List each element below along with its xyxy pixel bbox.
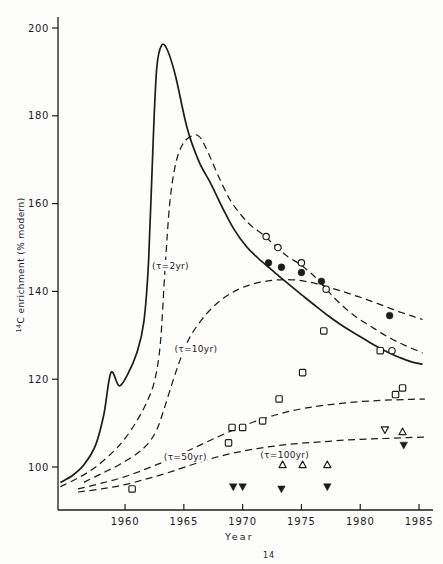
open-squares-marker	[321, 328, 327, 334]
curve-label-tau-2yr: (τ=2yr)	[152, 261, 189, 271]
filled-circles-marker	[386, 312, 393, 319]
curve-label-tau-50yr: (τ=50yr)	[164, 452, 207, 462]
open-triangles-up-marker	[324, 461, 331, 468]
caption-fragment: 14	[263, 551, 275, 560]
open-squares-marker	[377, 347, 383, 353]
filled-circles-marker	[278, 264, 285, 271]
filled-triangles-down-marker	[278, 486, 286, 493]
curve-label-tau-10yr: (τ=10yr)	[174, 344, 217, 354]
filled-circles-marker	[265, 259, 272, 266]
x-tick-label: 1985	[405, 516, 434, 527]
filled-triangles-down-marker	[324, 484, 332, 491]
open-squares-marker	[239, 424, 245, 430]
open-squares-marker	[259, 418, 265, 424]
y-tick-label: 120	[28, 374, 49, 385]
open-triangles-up-marker	[299, 461, 306, 468]
open-circles-marker	[298, 260, 304, 266]
y-tick-label: 180	[28, 110, 49, 121]
open-triangles-up-marker	[279, 461, 286, 468]
curve-tau-50yr	[78, 399, 425, 489]
x-tick-label: 1970	[228, 516, 257, 527]
open-squares-marker	[229, 424, 235, 430]
open-circles-marker	[263, 233, 269, 239]
y-tick-label: 200	[28, 23, 49, 34]
figure-page: 1001201401601802001960196519701975198019…	[0, 0, 443, 564]
x-axis-label: Year	[224, 531, 254, 542]
open-circles-marker	[389, 347, 395, 353]
x-tick-label: 1965	[170, 516, 199, 527]
y-tick-label: 100	[28, 462, 49, 473]
curve-atmosphere	[60, 44, 422, 482]
open-squares-marker	[129, 486, 135, 492]
open-squares-marker	[299, 369, 305, 375]
open-squares-marker	[276, 396, 282, 402]
c14-enrichment-chart: 1001201401601802001960196519701975198019…	[0, 0, 443, 564]
filled-triangles-down-marker	[400, 442, 408, 449]
curve-label-tau-100yr: (τ=100yr)	[260, 450, 309, 460]
y-axis-label: 14C enrichment (% modern)	[15, 197, 26, 332]
y-tick-label: 140	[28, 286, 49, 297]
filled-circles-marker	[298, 269, 305, 276]
filled-triangles-down-marker	[229, 484, 237, 491]
curve-tau-100yr	[78, 437, 427, 492]
y-tick-label: 160	[28, 198, 49, 209]
open-triangles-up-marker	[399, 428, 406, 435]
open-squares-marker	[399, 385, 405, 391]
filled-circles-marker	[318, 278, 325, 285]
curve-tau-2yr	[60, 135, 422, 487]
open-circles-marker	[275, 244, 281, 250]
open-squares-marker	[392, 391, 398, 397]
curve-tau-10yr	[84, 280, 423, 483]
filled-triangles-down-marker	[239, 484, 247, 491]
x-tick-label: 1980	[346, 516, 375, 527]
open-triangles-down-marker	[381, 427, 388, 434]
open-circles-marker	[323, 286, 329, 292]
x-tick-label: 1975	[287, 516, 316, 527]
open-squares-marker	[225, 440, 231, 446]
x-tick-label: 1960	[111, 516, 140, 527]
